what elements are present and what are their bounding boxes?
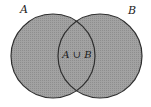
set-b-label: B — [127, 4, 136, 17]
venn-diagram: A B A ∪ B — [0, 0, 151, 107]
union-label: A ∪ B — [61, 49, 91, 60]
set-a-label: A — [19, 3, 28, 16]
